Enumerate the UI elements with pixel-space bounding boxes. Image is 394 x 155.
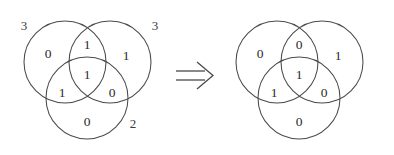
double-right-arrow-icon bbox=[172, 56, 220, 96]
region-value-right-bottom-intersection: 0 bbox=[102, 86, 122, 100]
region-value-left-bottom-intersection: 1 bbox=[264, 86, 284, 100]
outer-label-bottom-right: 2 bbox=[123, 117, 143, 130]
outer-label-top-left: 3 bbox=[14, 19, 34, 32]
region-value-left-right-intersection: 0 bbox=[289, 38, 309, 52]
region-value-right-bottom-intersection: 0 bbox=[314, 86, 334, 100]
venn-diagram-right: 0 0 1 1 1 0 0 bbox=[214, 0, 390, 155]
region-value-right-only: 1 bbox=[328, 49, 348, 63]
region-value-left-only: 0 bbox=[38, 47, 58, 61]
venn-diagram-left: 3 3 2 0 1 1 1 1 0 0 bbox=[2, 0, 178, 155]
outer-label-top-right: 3 bbox=[145, 19, 165, 32]
venn-transformation-figure: 3 3 2 0 1 1 1 1 0 0 0 bbox=[0, 0, 394, 155]
region-value-left-only: 0 bbox=[250, 47, 270, 61]
region-value-left-right-intersection: 1 bbox=[77, 38, 97, 52]
region-value-left-bottom-intersection: 1 bbox=[52, 86, 72, 100]
region-value-bottom-only: 0 bbox=[77, 115, 97, 129]
region-value-center-triple-intersection: 1 bbox=[289, 68, 309, 82]
region-value-center-triple-intersection: 1 bbox=[77, 68, 97, 82]
region-value-bottom-only: 0 bbox=[289, 115, 309, 129]
region-value-right-only: 1 bbox=[116, 49, 136, 63]
